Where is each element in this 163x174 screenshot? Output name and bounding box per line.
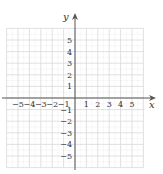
x-tick-label: −4	[24, 100, 36, 109]
y-tick-label: 3	[67, 59, 72, 68]
y-tick-label: −3	[60, 129, 72, 138]
x-tick-label: 5	[129, 100, 134, 109]
y-tick-label: 1	[67, 82, 72, 91]
y-axis-label: y	[62, 11, 69, 22]
x-tick-label: 4	[118, 100, 123, 109]
y-tick-label: −1	[60, 106, 72, 115]
y-tick-label: −5	[60, 152, 72, 161]
y-tick-label: −2	[60, 117, 72, 126]
x-tick-label: −3	[35, 100, 47, 109]
x-tick-label: −5	[12, 100, 24, 109]
y-tick-label: −4	[60, 140, 72, 149]
y-tick-label: 5	[67, 36, 72, 45]
y-tick-label: 2	[67, 71, 72, 80]
x-tick-labels: −5−4−3−2−112345	[12, 100, 134, 109]
x-axis-label: x	[149, 99, 155, 110]
x-tick-label: 1	[84, 100, 89, 109]
x-tick-label: 3	[107, 100, 112, 109]
y-tick-label: 4	[67, 48, 72, 57]
x-tick-label: 2	[95, 100, 100, 109]
coordinate-plane: x y −5−4−3−2−112345 54321−1−2−3−4−5	[0, 0, 163, 174]
x-tick-label: −2	[46, 100, 58, 109]
